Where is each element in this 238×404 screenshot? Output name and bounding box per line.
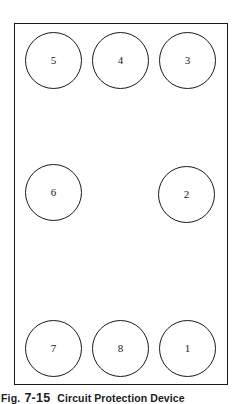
caption-fig-word: Fig. [1, 392, 20, 404]
figure-caption: Fig. 7-15 Circuit Protection Device [0, 391, 238, 404]
port-circle-4[interactable]: 4 [92, 32, 149, 89]
port-label: 3 [185, 55, 191, 66]
port-label: 4 [118, 55, 124, 66]
caption-fig-number: 7-15 [24, 391, 50, 404]
component-layout-panel: 5 4 3 6 2 7 8 1 [14, 23, 228, 385]
port-circle-8[interactable]: 8 [92, 320, 149, 377]
caption-text: Circuit Protection Device [54, 392, 184, 404]
port-circle-7[interactable]: 7 [25, 320, 82, 377]
port-circle-6[interactable]: 6 [25, 164, 82, 221]
port-label: 5 [51, 55, 57, 66]
port-label: 6 [51, 187, 57, 198]
port-circle-1[interactable]: 1 [159, 320, 216, 377]
figure-diagram: 5 4 3 6 2 7 8 1 Fig. 7-15 Circuit P [0, 0, 238, 404]
port-circle-2[interactable]: 2 [158, 166, 215, 223]
port-label: 1 [185, 343, 191, 354]
port-circle-3[interactable]: 3 [159, 32, 216, 89]
port-label: 2 [184, 189, 190, 200]
port-label: 7 [51, 343, 57, 354]
port-label: 8 [118, 343, 124, 354]
port-circle-5[interactable]: 5 [25, 32, 82, 89]
